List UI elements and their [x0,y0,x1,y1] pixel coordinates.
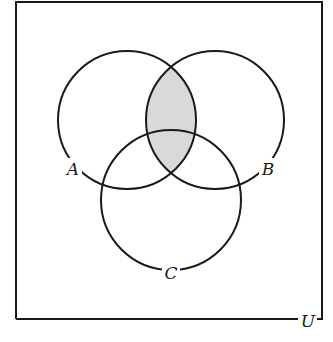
venn-diagram: A B C U [0,0,333,342]
label-b: B [261,159,275,179]
label-c: C [164,263,177,283]
label-u: U [301,311,316,331]
label-a: A [65,159,79,179]
